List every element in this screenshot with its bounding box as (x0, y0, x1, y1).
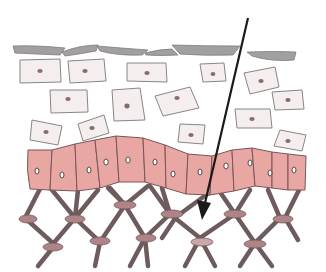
arrowhead-icon (197, 200, 211, 220)
connective-lattice (25, 185, 300, 266)
squamous-cells (20, 59, 306, 151)
diagram-canvas (0, 0, 326, 272)
surface-layer (13, 45, 296, 61)
basal-cells (27, 136, 306, 195)
skin-layer-illustration (0, 0, 326, 272)
